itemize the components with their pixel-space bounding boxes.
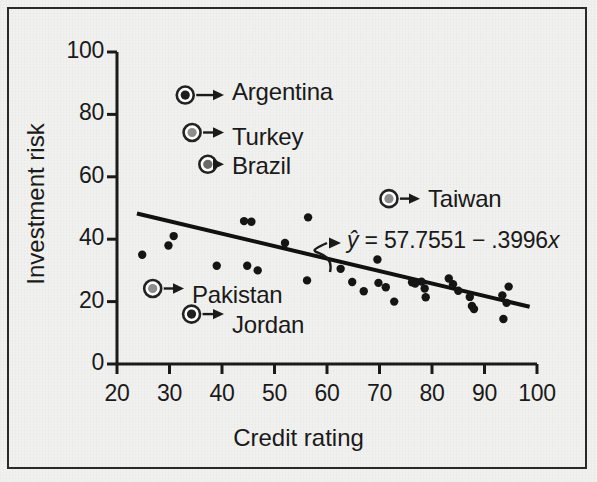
x-tick-label: 60 — [297, 380, 357, 407]
callout-label-argentina: Argentina — [232, 78, 333, 106]
x-tick-label: 40 — [192, 380, 252, 407]
callout-arrow-head — [213, 159, 224, 169]
callout-arrow-head — [213, 309, 224, 319]
data-point — [466, 293, 474, 301]
scatter-plot-figure: 020406080100 2030405060708090100 Investm… — [0, 0, 597, 482]
x-tick-label: 70 — [350, 380, 410, 407]
data-point — [502, 299, 510, 307]
data-point — [164, 241, 172, 249]
callout-arrow-head — [213, 127, 224, 137]
data-point — [449, 280, 457, 288]
data-point — [170, 232, 178, 240]
data-point — [336, 265, 344, 273]
data-point — [348, 278, 356, 286]
x-tick-label: 90 — [455, 380, 515, 407]
data-point — [470, 305, 478, 313]
data-point — [243, 262, 251, 270]
callout-label-turkey: Turkey — [232, 123, 303, 151]
regression-equation-label: ŷ = 57.7551 − .3996x — [347, 227, 559, 254]
callout-marker-dot — [187, 128, 196, 137]
y-tick-label: 0 — [30, 349, 104, 376]
data-point — [247, 218, 255, 226]
data-point — [420, 284, 428, 292]
data-point — [498, 291, 506, 299]
data-point — [499, 315, 507, 323]
x-tick-label: 20 — [87, 380, 147, 407]
x-axis-title: Credit rating — [0, 424, 597, 452]
x-tick-label: 100 — [507, 380, 567, 407]
data-point — [303, 276, 311, 284]
callout-marker-dot — [187, 309, 196, 318]
data-point — [454, 286, 462, 294]
data-point — [138, 251, 146, 259]
data-point — [382, 283, 390, 291]
callout-marker-dot — [203, 160, 212, 169]
data-point — [240, 217, 248, 225]
callout-label-jordan: Jordan — [232, 311, 304, 339]
callout-marker-dot — [181, 90, 190, 99]
y-axis-title: Investment risk — [22, 94, 50, 314]
x-tick-label: 80 — [402, 380, 462, 407]
callout-label-taiwan: Taiwan — [428, 185, 502, 213]
data-point — [360, 287, 368, 295]
callout-label-brazil: Brazil — [232, 152, 291, 180]
x-tick-label: 50 — [245, 380, 305, 407]
data-point — [213, 262, 221, 270]
callout-label-pakistan: Pakistan — [192, 281, 282, 309]
data-point — [304, 213, 312, 221]
data-point — [254, 266, 262, 274]
callout-arrow-head — [409, 193, 420, 203]
data-point — [390, 297, 398, 305]
callout-arrow-head — [213, 90, 224, 100]
callout-marker-dot — [384, 194, 393, 203]
y-tick-label: 100 — [30, 37, 104, 64]
callout-arrow-head — [173, 283, 184, 293]
data-point — [504, 282, 512, 290]
data-point — [373, 255, 381, 263]
callout-marker-dot — [148, 284, 157, 293]
data-point — [374, 279, 382, 287]
data-point — [281, 239, 289, 247]
x-tick-label: 30 — [140, 380, 200, 407]
data-point — [422, 293, 430, 301]
equation-arrow-head — [329, 238, 341, 249]
